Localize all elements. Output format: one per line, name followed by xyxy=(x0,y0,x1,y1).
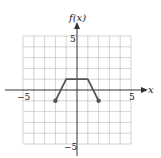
y-max-tick-label: 5 xyxy=(70,35,76,44)
x-axis-arrow-icon xyxy=(141,87,148,93)
function-graph xyxy=(0,0,161,158)
x-min-tick-label: −5 xyxy=(17,93,30,102)
closed-endpoint-right xyxy=(96,99,100,103)
x-axis-label: x xyxy=(148,85,154,95)
y-axis-arrow-icon xyxy=(74,22,80,29)
closed-endpoint-left xyxy=(53,99,57,103)
x-max-tick-label: 5 xyxy=(129,93,135,102)
y-axis-label: f(x) xyxy=(69,13,86,23)
y-min-tick-label: −5 xyxy=(64,143,77,152)
